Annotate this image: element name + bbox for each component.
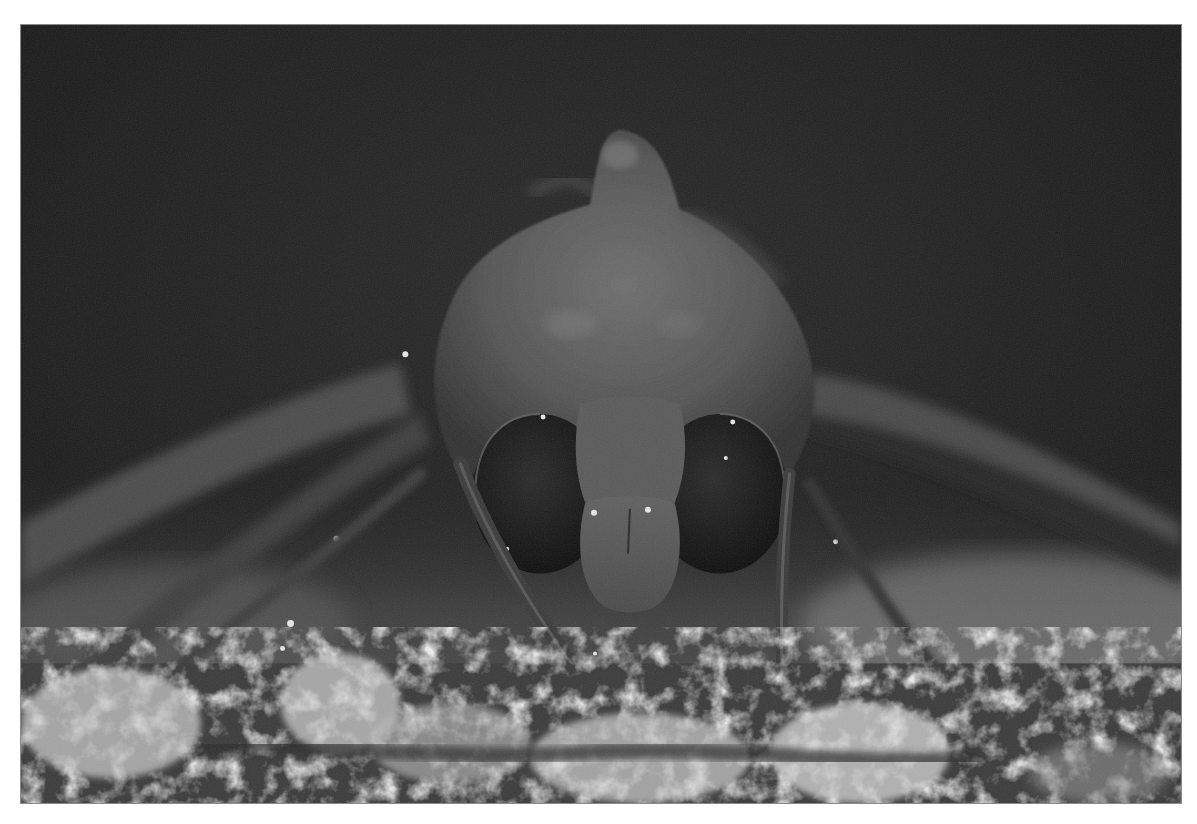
moth-photograph [20,24,1182,804]
film-grain [21,25,1181,803]
page [0,0,1197,824]
moth-illustration [21,25,1181,803]
